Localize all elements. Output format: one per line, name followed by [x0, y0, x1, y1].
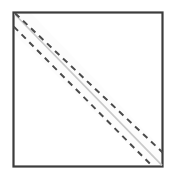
figure-container: [0, 0, 175, 179]
fold-diagram-svg: [0, 0, 175, 179]
